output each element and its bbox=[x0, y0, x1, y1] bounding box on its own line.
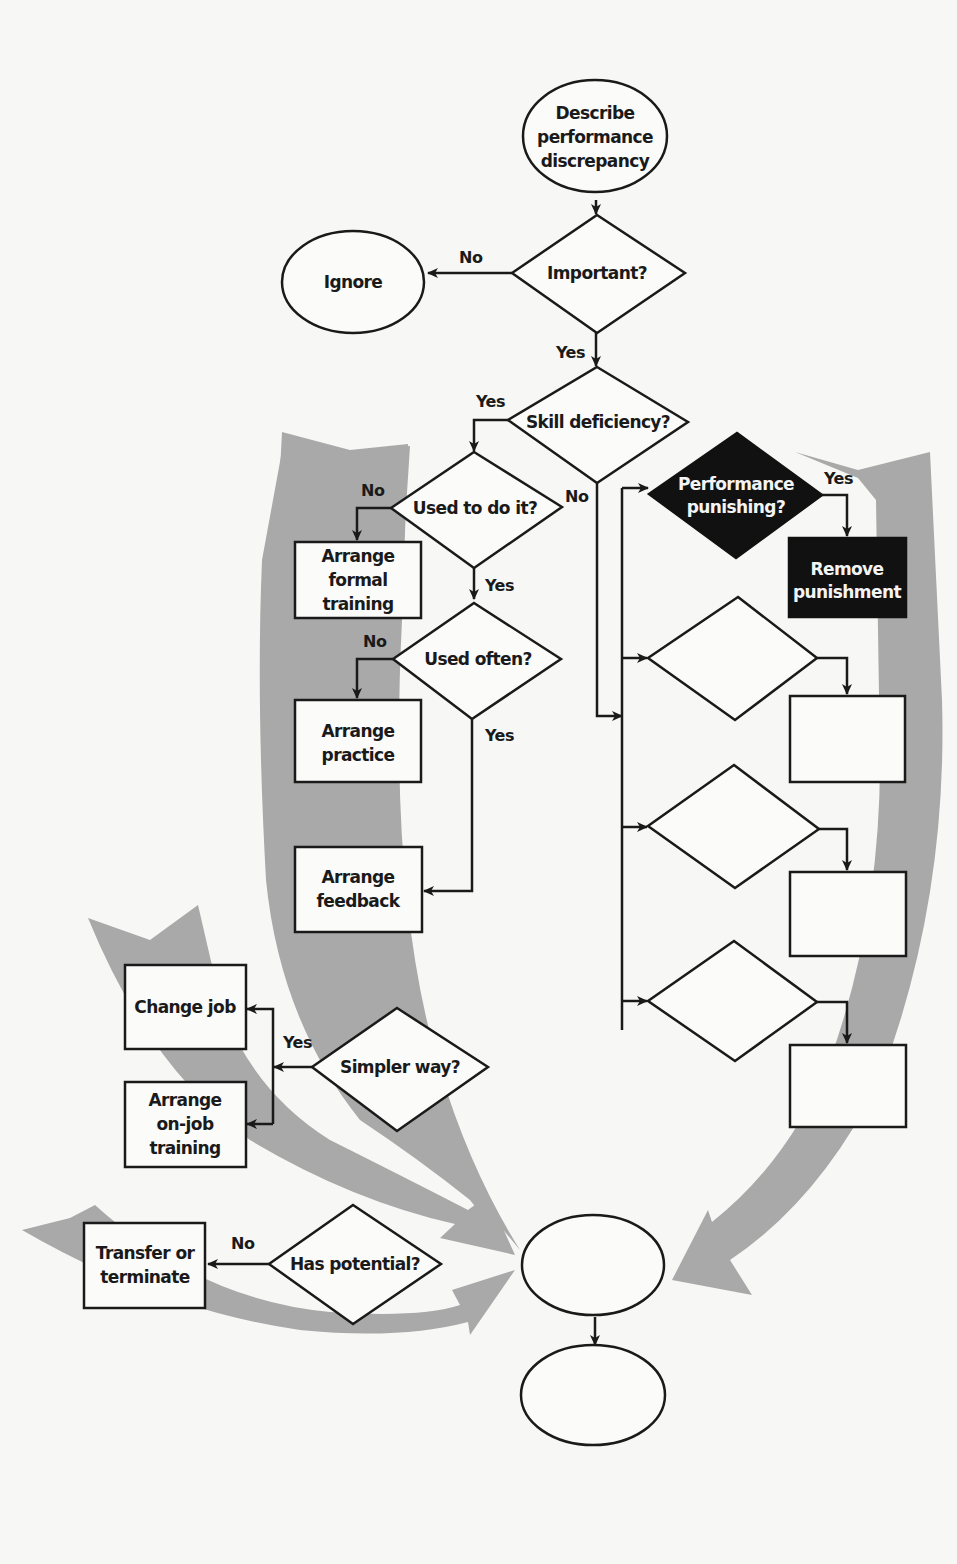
svg-text:Important?: Important? bbox=[547, 263, 647, 283]
node-transfer-or-terminate: Transfer or terminate bbox=[84, 1223, 205, 1308]
svg-text:Ignore: Ignore bbox=[324, 272, 383, 292]
node-skill-deficiency: Skill deficiency? bbox=[508, 367, 688, 483]
node-blank-ellipse-1 bbox=[522, 1215, 664, 1315]
svg-text:Remove: Remove bbox=[810, 559, 883, 579]
node-blank-ellipse-2 bbox=[521, 1345, 665, 1445]
node-remove-punishment: Remove punishment bbox=[789, 538, 906, 617]
svg-text:Skill deficiency?: Skill deficiency? bbox=[526, 412, 670, 432]
edge-skill-no-bus bbox=[597, 483, 622, 716]
svg-text:feedback: feedback bbox=[317, 891, 401, 911]
label-usedto-no: No bbox=[361, 481, 385, 500]
node-has-potential: Has potential? bbox=[269, 1205, 441, 1324]
svg-text:Arrange: Arrange bbox=[322, 546, 395, 566]
label-skill-no: No bbox=[565, 487, 589, 506]
svg-text:training: training bbox=[322, 594, 393, 614]
svg-text:performance: performance bbox=[537, 127, 653, 147]
edge-punishing-remove bbox=[820, 495, 847, 536]
svg-text:Performance: Performance bbox=[678, 474, 794, 494]
svg-text:Transfer or: Transfer or bbox=[96, 1243, 196, 1263]
svg-text:Has potential?: Has potential? bbox=[290, 1254, 420, 1274]
node-blank-rect-1 bbox=[790, 696, 905, 782]
node-blank-rect-2 bbox=[790, 872, 906, 956]
node-arrange-formal-training: Arrange formal training bbox=[295, 542, 421, 618]
svg-text:punishing?: punishing? bbox=[687, 497, 785, 517]
svg-text:Simpler way?: Simpler way? bbox=[340, 1057, 460, 1077]
node-change-job: Change job bbox=[125, 965, 246, 1049]
label-usedoften-no: No bbox=[363, 632, 387, 651]
svg-text:Used to do it?: Used to do it? bbox=[413, 498, 537, 518]
label-potential-no: No bbox=[231, 1234, 255, 1253]
node-arrange-onjob-training: Arrange on-job training bbox=[125, 1082, 246, 1167]
edge-blank1-rect1 bbox=[817, 658, 847, 694]
svg-text:discrepancy: discrepancy bbox=[541, 151, 650, 171]
svg-text:Used often?: Used often? bbox=[424, 649, 532, 669]
label-punishing-yes: Yes bbox=[823, 469, 853, 488]
node-describe-discrepancy: Describe performance discrepancy bbox=[523, 80, 667, 192]
svg-text:formal: formal bbox=[329, 570, 388, 590]
node-arrange-practice: Arrange practice bbox=[295, 700, 421, 782]
label-skill-yes: Yes bbox=[475, 392, 505, 411]
node-blank-diamond-3 bbox=[648, 941, 817, 1061]
label-simpler-yes: Yes bbox=[282, 1033, 312, 1052]
node-blank-rect-3 bbox=[790, 1045, 906, 1127]
label-usedto-yes: Yes bbox=[484, 576, 514, 595]
svg-text:Describe: Describe bbox=[556, 103, 635, 123]
svg-text:on-job: on-job bbox=[157, 1114, 214, 1134]
svg-text:Arrange: Arrange bbox=[322, 721, 395, 741]
edge-usedoften-feedback bbox=[424, 718, 472, 891]
svg-text:Arrange: Arrange bbox=[322, 867, 395, 887]
svg-text:practice: practice bbox=[322, 745, 395, 765]
node-arrange-feedback: Arrange feedback bbox=[295, 847, 422, 932]
label-usedoften-yes: Yes bbox=[484, 726, 514, 745]
svg-text:Change job: Change job bbox=[134, 997, 236, 1017]
label-important-yes: Yes bbox=[555, 343, 585, 362]
flowchart-canvas: No Yes Yes No No Yes No Yes Yes Yes No D… bbox=[0, 0, 957, 1564]
node-blank-diamond-2 bbox=[648, 765, 819, 888]
edge-blank2-rect2 bbox=[819, 829, 847, 870]
svg-text:Arrange: Arrange bbox=[149, 1090, 222, 1110]
label-important-no: No bbox=[459, 248, 483, 267]
svg-text:punishment: punishment bbox=[793, 582, 901, 602]
svg-text:training: training bbox=[149, 1138, 220, 1158]
node-important: Important? bbox=[512, 215, 685, 333]
svg-text:terminate: terminate bbox=[100, 1267, 189, 1287]
edge-skill-usedto bbox=[474, 420, 508, 451]
node-ignore: Ignore bbox=[282, 231, 424, 333]
